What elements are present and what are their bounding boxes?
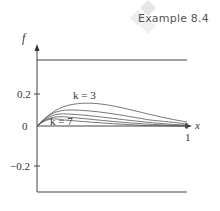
annotation-k3: k = 3 — [73, 89, 96, 101]
y-tick-0.2: 0.2 — [17, 88, 31, 100]
chart: f x 1 0.2 0 −0.2 k = 3 k = 7 — [0, 0, 220, 211]
y-tick-neg0.2: −0.2 — [10, 160, 30, 172]
y-tick-0: 0 — [22, 120, 28, 132]
y-axis-label: f — [22, 31, 27, 45]
y-axis-arrow-icon — [35, 44, 40, 51]
x-axis-label: x — [194, 119, 200, 131]
annotation-k7: k = 7 — [50, 115, 73, 127]
x-tick-1: 1 — [185, 131, 191, 143]
